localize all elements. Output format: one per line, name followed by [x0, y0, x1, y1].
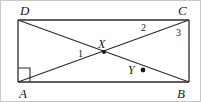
point-y-dot	[141, 68, 146, 73]
vertex-label-a: A	[19, 87, 27, 100]
vertex-label-b: B	[177, 87, 185, 100]
figure-frame	[1, 1, 201, 102]
vertex-label-c: C	[178, 4, 187, 17]
angle-label-2: 2	[141, 23, 146, 33]
angle-label-3: 3	[176, 28, 181, 38]
point-label-x: X	[98, 38, 105, 50]
geometry-figure: D C A B X Y 1 2 3	[0, 0, 201, 102]
angle-label-1: 1	[78, 49, 83, 59]
figure-canvas	[0, 0, 201, 102]
point-label-y: Y	[128, 64, 135, 76]
vertex-label-d: D	[20, 4, 29, 17]
